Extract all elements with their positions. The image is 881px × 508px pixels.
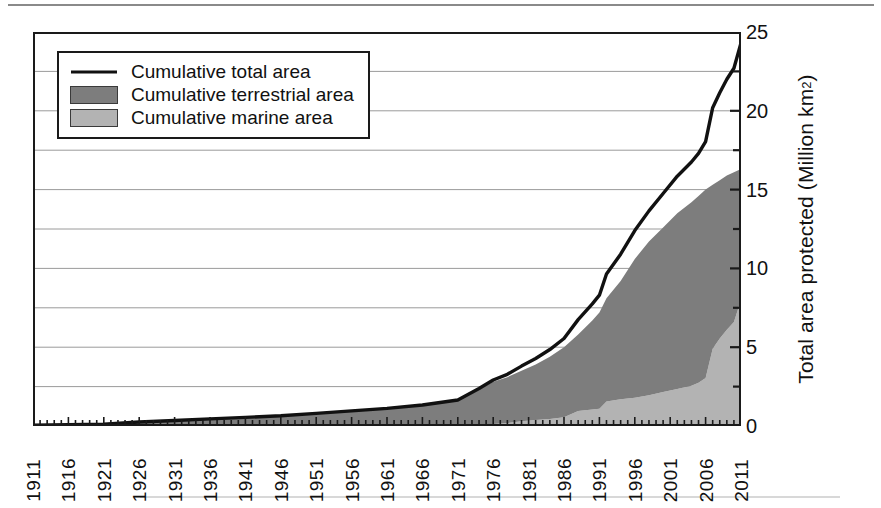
x-axis-tick-label: 2001 [661,458,680,502]
y-axis-tick-label: 15 [746,180,768,200]
x-axis-tick-label: 1961 [378,458,397,502]
chart-figure: 0510152025 Total area protected (Million… [0,0,881,508]
x-axis-tick-label: 1976 [484,458,503,502]
x-axis-tick-label: 1981 [520,458,539,502]
legend-label-marine: Cumulative marine area [131,108,333,127]
legend-line-key-icon [70,63,118,80]
x-axis-tick-label: 1951 [307,458,326,502]
x-axis-tick-label: 1971 [449,458,468,502]
x-axis-tick-label: 1921 [95,458,114,502]
x-axis-tick-label: 1986 [555,458,574,502]
y-axis-tick-label: 20 [746,101,768,121]
y-axis-title: Total area protected (Million km2) [786,32,826,426]
x-axis-tick-label: 1966 [413,458,432,502]
legend-swatch-terrestrial-icon [70,86,118,104]
x-axis-tick-label: 1991 [590,458,609,502]
x-axis-tick-label: 1946 [272,458,291,502]
x-axis-tick-label: 1936 [201,458,220,502]
x-axis-tick-label: 2011 [732,459,751,502]
x-axis-tick-label: 1996 [626,458,645,502]
legend-item-marine: Cumulative marine area [70,106,354,129]
x-axis-tick-label: 1911 [24,459,43,502]
legend-label-terrestrial: Cumulative terrestrial area [131,85,354,104]
x-axis-tick-label: 1916 [59,458,78,502]
legend-item-total: Cumulative total area [70,60,354,83]
legend-item-terrestrial: Cumulative terrestrial area [70,83,354,106]
y-axis-labels: 0510152025 [746,32,786,426]
y-axis-tick-label: 0 [746,416,757,436]
x-axis-tick-label: 1926 [130,458,149,502]
legend-label-total: Cumulative total area [131,62,311,81]
x-axis-tick-label: 1931 [166,458,185,502]
x-axis-labels: 1911191619211926193119361941194619511956… [33,430,741,504]
y-axis-tick-label: 5 [746,337,757,357]
y-axis-tick-label: 10 [746,258,768,278]
top-rule [8,4,874,6]
chart-legend: Cumulative total area Cumulative terrest… [57,51,370,139]
y-axis-tick-label: 25 [746,22,768,42]
x-axis-tick-label: 1956 [343,458,362,502]
x-axis-tick-label: 1941 [236,458,255,502]
legend-swatch-marine-icon [70,109,118,127]
x-axis-tick-label: 2006 [697,458,716,502]
